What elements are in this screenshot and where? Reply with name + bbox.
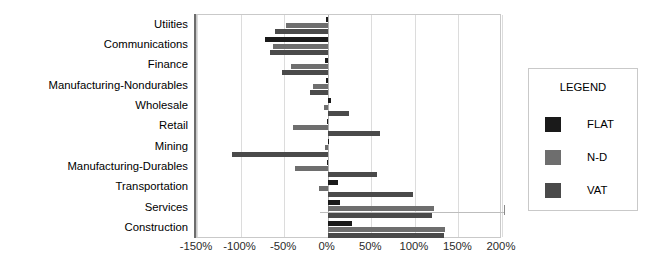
category-label: Construction [0,218,193,238]
legend-swatch-icon [545,183,561,198]
bar-n-d [286,23,328,28]
bar-n-d [319,186,328,191]
legend-label: FLAT [587,118,614,130]
legend-item-vat: VAT [529,179,637,201]
x-tick-label: 0% [319,240,335,252]
legend-item-n-d: N-D [529,146,637,168]
bar-flat [328,221,352,226]
bar-vat [328,233,444,238]
bar-group [197,15,500,35]
bar-flat [325,58,328,63]
bar-flat [326,78,328,83]
bar-n-d [324,105,327,110]
bar-vat [232,152,328,157]
bar-group [197,178,500,198]
value-axis: -150%-100%-50%0%50%100%150%200% [196,240,501,260]
bar-group [197,158,500,178]
bar-n-d [295,166,327,171]
bar-group [197,117,500,137]
x-tick-label: 50% [359,240,382,252]
bar-n-d [325,145,328,150]
legend-swatch-icon [545,117,561,132]
plot-frame [196,14,501,238]
legend-label: VAT [587,184,607,196]
x-tick-label: -100% [223,240,256,252]
category-label: Utiities [0,14,193,34]
gridline [502,15,503,237]
bar-vat [328,111,349,116]
category-label: Manufacturing-Durables [0,157,193,177]
category-label: Mining [0,136,193,156]
axis-artifact-tick [504,205,505,215]
bar-flat [265,37,328,42]
legend-title: LEGEND [529,81,637,93]
bar-group [197,35,500,55]
legend-item-flat: FLAT [529,113,637,135]
bar-n-d [291,64,328,69]
bar-vat [328,131,380,136]
bar-n-d [293,125,328,130]
plot-area [196,14,501,238]
bar-flat [328,98,331,103]
bar-flat [328,200,340,205]
bar-group [197,96,500,116]
legend-label: N-D [587,151,607,163]
bar-group [197,76,500,96]
bar-group [197,198,500,218]
x-tick-label: -50% [270,240,296,252]
x-tick-label: -150% [180,240,213,252]
bar-flat [328,180,338,185]
x-tick-label: 100% [399,240,428,252]
bar-group [197,56,500,76]
bar-vat [270,50,328,55]
category-label: Retail [0,116,193,136]
bar-flat [328,139,330,144]
bar-n-d [328,206,434,211]
bar-group [197,219,500,239]
category-label: Finance [0,55,193,75]
legend-box: LEGEND FLATN-DVAT [528,68,638,211]
legend-swatch-icon [545,150,561,165]
category-label: Wholesale [0,95,193,115]
bar-vat [328,192,413,197]
bar-flat [327,119,328,124]
category-label: Transportation [0,177,193,197]
category-axis: UtiitiesCommunicationsFinanceManufacturi… [0,14,193,238]
bar-vat [328,213,433,218]
x-tick-label: 150% [443,240,472,252]
chart-container: UtiitiesCommunicationsFinanceManufacturi… [0,0,665,277]
bar-flat [326,17,328,22]
bar-vat [282,70,328,75]
axis-artifact-line [320,212,505,213]
bar-n-d [313,84,328,89]
bar-vat [328,172,378,177]
bar-n-d [273,44,328,49]
category-label: Manufacturing-Nondurables [0,75,193,95]
bar-flat [327,160,328,165]
bar-group [197,137,500,157]
category-label: Communications [0,34,193,54]
bar-n-d [328,227,446,232]
category-label: Services [0,197,193,217]
bar-vat [310,90,327,95]
x-tick-label: 200% [487,240,516,252]
bar-vat [275,29,327,34]
